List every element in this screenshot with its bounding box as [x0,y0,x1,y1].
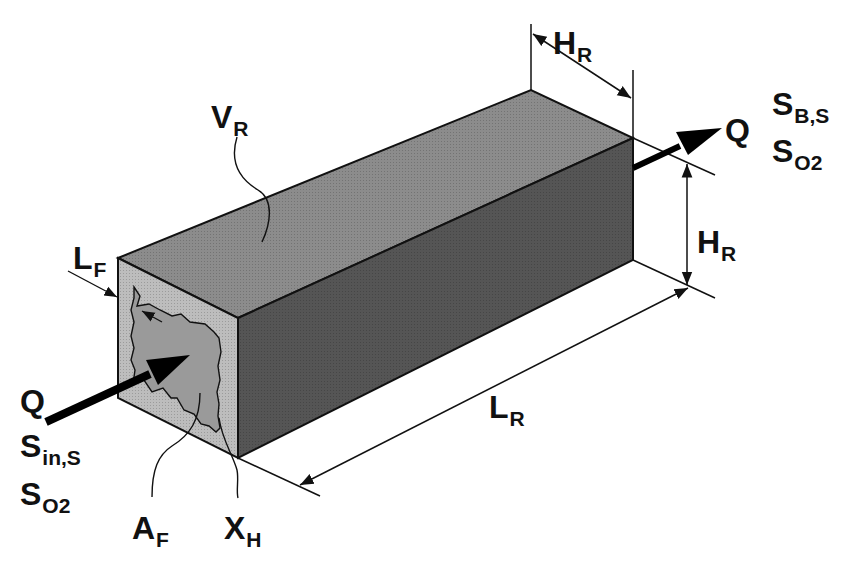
label-inflow-q: Q [20,385,45,417]
label-outflow-oxygen: SO2 [772,135,822,167]
label-film-thickness: LF [73,242,106,274]
label-outflow-q: Q [725,114,750,146]
outflow-arrow [633,128,722,168]
label-biomass: XH [224,512,262,544]
label-volume: VR [211,101,249,133]
label-height-top: HR [553,27,592,59]
label-inflow-oxygen: SO2 [20,478,70,510]
reactor-box [118,90,633,458]
label-length: LR [489,391,525,423]
label-inflow-substrate: Sin,S [20,430,81,462]
label-area: AF [132,512,169,544]
reactor-diagram [0,0,858,574]
label-outflow-substrate: SB,S [772,88,829,120]
label-height-side: HR [697,226,736,258]
